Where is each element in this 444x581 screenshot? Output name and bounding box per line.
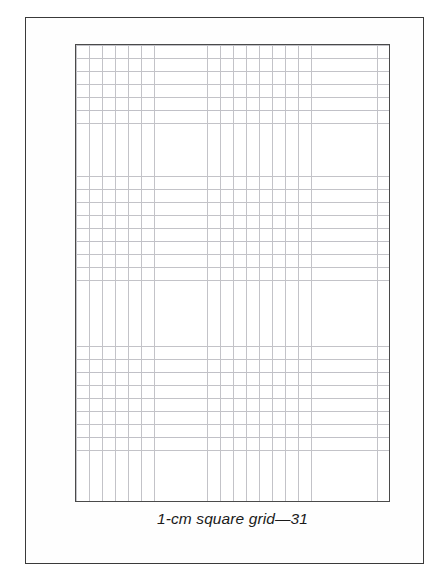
figure-caption: 1-cm square grid—31 [75, 510, 390, 528]
grid-figure [75, 44, 390, 502]
page-sheet: 1-cm square grid—31 [0, 0, 444, 581]
grid-lines [76, 45, 389, 501]
